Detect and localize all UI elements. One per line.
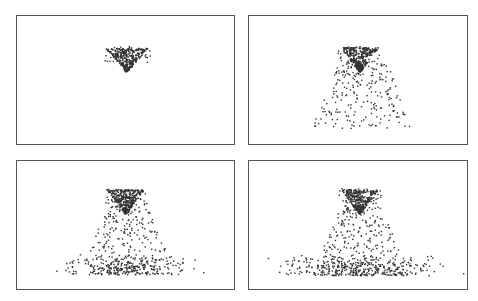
panel-2 xyxy=(248,15,468,145)
panel-1 xyxy=(16,15,235,145)
particle-plot-3 xyxy=(17,161,236,291)
particle-plot-2 xyxy=(249,16,469,146)
particle-plot-4 xyxy=(249,161,469,291)
particle-plot-1 xyxy=(17,16,236,146)
panel-3 xyxy=(16,160,235,290)
panel-4 xyxy=(248,160,468,290)
